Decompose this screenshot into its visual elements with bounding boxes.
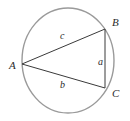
side-label-b: b <box>60 80 65 90</box>
inscribed-triangle-figure: A B C a b c <box>0 0 130 121</box>
side-label-c: c <box>60 31 64 41</box>
vertex-label-a: A <box>9 60 16 71</box>
side-label-a: a <box>98 57 103 67</box>
vertex-label-c: C <box>112 88 119 99</box>
vertex-label-b: B <box>112 17 119 28</box>
figure-canvas <box>0 0 130 121</box>
